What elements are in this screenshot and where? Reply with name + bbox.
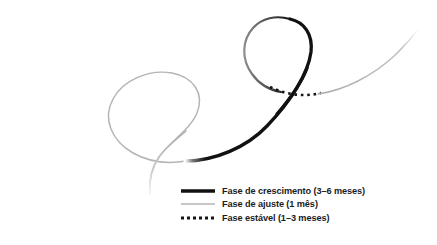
legend-item-adjustment[interactable]: Fase de ajuste (1 mês) — [181, 198, 431, 212]
curve-segment-left-spiral — [108, 72, 199, 193]
legend-marker-thick-solid-line-icon — [181, 185, 215, 197]
legend-label-adjustment: Fase de ajuste (1 mês) — [222, 198, 318, 210]
curve-segment-right-tail — [318, 29, 419, 94]
legend-item-growth[interactable]: Fase de crescimento (3–6 meses) — [181, 184, 431, 198]
legend-marker-dotted-line-icon — [181, 212, 215, 224]
legend: Fase de crescimento (3–6 meses) Fase de … — [181, 184, 431, 225]
legend-label-growth: Fase de crescimento (3–6 meses) — [222, 185, 365, 197]
legend-marker-thin-solid-line-icon — [181, 198, 215, 210]
curve-segment-top-loop — [244, 17, 290, 92]
legend-label-stable: Fase estável (1–3 meses) — [222, 212, 329, 224]
curve-segment-growth-sweep — [185, 19, 311, 161]
curve-segment-growth-overlap — [277, 68, 307, 114]
figure-container: Fase de crescimento (3–6 meses) Fase de … — [0, 0, 437, 245]
legend-item-stable[interactable]: Fase estável (1–3 meses) — [181, 211, 431, 225]
